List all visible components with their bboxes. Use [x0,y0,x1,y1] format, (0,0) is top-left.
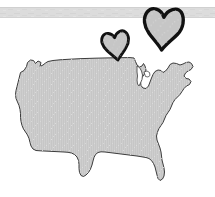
lake-huron-detail [144,71,150,77]
illustration-canvas: United States map illustration with two … [0,0,215,197]
map-and-hearts-artwork [0,0,215,197]
united-states-map [14,56,196,186]
map-texture [14,56,196,186]
